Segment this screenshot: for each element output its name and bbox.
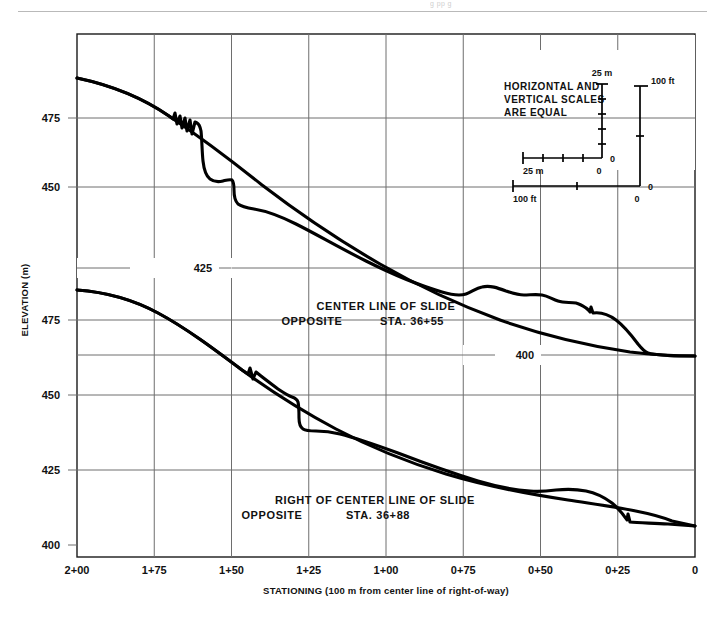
upper-annotation-line1: CENTER LINE OF SLIDE [316, 300, 455, 312]
y-tick-label-lower-400-inside: 400 [516, 349, 534, 361]
lower-annotation-line1: RIGHT OF CENTER LINE OF SLIDE [275, 494, 475, 506]
scale-note-line1: HORIZONTAL AND [504, 81, 600, 92]
lower-annotation-opposite: OPPOSITE [241, 509, 302, 521]
scale-vertical-metric-zero: 0 [610, 154, 615, 164]
y-axis-title: ELEVATION (m) [19, 264, 30, 337]
x-tick-label-5: 0+75 [451, 564, 476, 576]
scale-note-line3: ARE EQUAL [504, 107, 567, 118]
scale-vertical-metric-label: 25 m [592, 68, 613, 78]
scale-vertical-imperial-label: 100 ft [651, 76, 675, 86]
y-tick-label-lower-450: 450 [42, 389, 60, 401]
x-tick-label-1: 1+75 [142, 564, 167, 576]
chart-canvas: 475 450 425 475 450 425 400 400 ELEVATIO… [0, 0, 725, 623]
scale-horizontal-imperial-zero: 0 [634, 194, 639, 204]
y-tick-label-upper-425: 425 [194, 262, 212, 274]
scale-note-line2: VERTICAL SCALES [504, 94, 605, 105]
scale-horizontal-metric-zero: 0 [596, 166, 601, 176]
x-tick-label-2: 1+50 [219, 564, 244, 576]
x-axis-title: STATIONING (100 m from center line of ri… [263, 585, 509, 596]
x-tick-label-4: 1+00 [374, 564, 399, 576]
y-tick-label-upper-475: 475 [42, 112, 60, 124]
left-axis-ticks [68, 118, 77, 545]
lower-annotation-station: STA. 36+88 [346, 509, 410, 521]
y-tick-label-lower-475: 475 [42, 314, 60, 326]
x-tick-label-0: 2+00 [65, 564, 90, 576]
x-tick-label-7: 0+25 [605, 564, 630, 576]
x-tick-label-3: 1+25 [296, 564, 321, 576]
scale-horizontal-imperial [513, 180, 640, 192]
figure-root: g pp g [0, 0, 725, 623]
y-tick-label-lower-400: 400 [42, 539, 60, 551]
y-tick-label-lower-425: 425 [42, 464, 60, 476]
y-tick-label-upper-450: 450 [42, 181, 60, 193]
x-tick-label-8: 0 [692, 564, 698, 576]
x-tick-label-6: 0+50 [528, 564, 553, 576]
scale-horizontal-imperial-label: 100 ft [513, 194, 537, 204]
upper-annotation-opposite: OPPOSITE [281, 315, 342, 327]
scale-horizontal-metric-label: 25 m [523, 166, 544, 176]
upper-annotation-station: STA. 36+55 [380, 315, 444, 327]
scale-vertical-imperial-zero: 0 [648, 182, 653, 192]
